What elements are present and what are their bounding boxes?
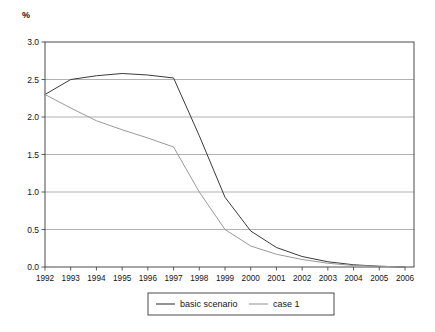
series-line-basic-scenario (45, 74, 405, 268)
data-series-group (45, 74, 405, 268)
x-axis-tick-label: 2001 (267, 274, 286, 283)
x-axis-tick-label: 2004 (344, 274, 363, 283)
y-axis-tick-label: 1.0 (27, 187, 39, 197)
y-axis-tick-label: 1.5 (27, 150, 39, 160)
x-axis-tick-label: 1992 (36, 274, 55, 283)
chart-container: % 3.02.52.01.51.00.50.0 1992199319941995… (0, 0, 435, 332)
x-axis-tick-label: 1996 (139, 274, 158, 283)
plot-area: 3.02.52.01.51.00.50.0 199219931994199519… (0, 0, 435, 332)
legend-label: case 1 (273, 299, 300, 309)
y-axis-tick-label: 2.0 (27, 112, 39, 122)
x-axis-tick-label: 1994 (87, 274, 106, 283)
x-axis-tick-marks (45, 267, 405, 271)
y-axis-tick-label: 0.5 (27, 225, 39, 235)
x-axis-tick-label: 2005 (370, 274, 389, 283)
y-axis-tick-label: 0.0 (27, 262, 39, 272)
legend-box (148, 293, 334, 315)
gridlines-group (45, 80, 414, 230)
x-axis-tick-label: 1995 (113, 274, 132, 283)
legend-label: basic scenario (180, 299, 238, 309)
x-axis-tick-label: 1999 (216, 274, 235, 283)
y-axis-tick-labels: 3.02.52.01.51.00.50.0 (27, 37, 39, 272)
y-axis-tick-label: 3.0 (27, 37, 39, 47)
x-axis-tick-label: 2006 (396, 274, 415, 283)
x-axis-tick-label: 2003 (319, 274, 338, 283)
chart-svg: 3.02.52.01.51.00.50.0 199219931994199519… (0, 0, 435, 332)
y-axis-tick-label: 2.5 (27, 75, 39, 85)
x-axis-tick-label: 1998 (190, 274, 209, 283)
x-axis-tick-label: 1997 (164, 274, 183, 283)
x-axis-tick-labels: 1992199319941995199619971998199920002001… (36, 274, 415, 283)
series-line-case-1 (45, 95, 405, 268)
x-axis-tick-label: 1993 (62, 274, 81, 283)
x-axis-tick-label: 2000 (242, 274, 261, 283)
y-axis-tick-marks (42, 42, 46, 267)
x-axis-tick-label: 2002 (293, 274, 312, 283)
chart-legend: basic scenariocase 1 (148, 293, 334, 315)
